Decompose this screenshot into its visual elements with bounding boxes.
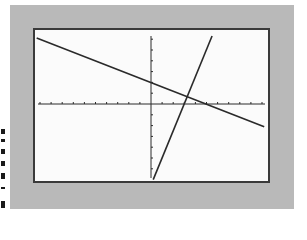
left-edge-marks xyxy=(0,125,6,209)
graph-screen xyxy=(33,28,270,183)
graph-plot xyxy=(35,30,268,181)
graph-line-1 xyxy=(37,38,265,127)
graph-line-2 xyxy=(153,36,212,180)
